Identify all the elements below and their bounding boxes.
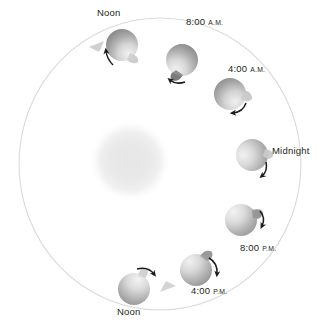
earth-noon-top	[106, 29, 138, 63]
earth-4pm	[180, 251, 212, 286]
label-4am-time: 4:00	[228, 63, 247, 74]
label-4pm-time: 4:00	[191, 285, 210, 296]
label-midnight: Midnight	[272, 146, 310, 156]
earth-8pm	[225, 204, 263, 236]
label-8am: 8:00 A.M.	[186, 17, 223, 27]
label-8pm-time: 8:00	[240, 242, 259, 253]
label-noon-bottom-text: Noon	[117, 306, 141, 317]
label-4pm: 4:00 P.M.	[191, 286, 227, 296]
earth-8am	[166, 44, 198, 81]
label-4am: 4:00 A.M.	[228, 64, 265, 74]
orbit-direction-marker-top-left	[89, 41, 104, 52]
label-4am-meridiem: A.M.	[250, 66, 265, 73]
orbit-direction-marker-bottom	[160, 281, 176, 292]
sun	[93, 124, 167, 198]
label-8am-time: 8:00	[186, 16, 205, 27]
earth-noon-bottom	[118, 268, 150, 305]
diagram-canvas: Noon 8:00 A.M. 4:00 A.M. Midnight 8:00 P…	[0, 0, 320, 324]
label-noon-bottom: Noon	[117, 307, 141, 317]
label-8pm: 8:00 P.M.	[240, 243, 276, 253]
label-8am-meridiem: A.M.	[208, 19, 223, 26]
orbit-diagram-svg	[0, 0, 320, 324]
label-midnight-text: Midnight	[272, 145, 310, 156]
label-noon-top: Noon	[97, 8, 121, 18]
label-4pm-meridiem: P.M.	[213, 288, 227, 295]
earth-4am	[214, 78, 252, 110]
label-8pm-meridiem: P.M.	[262, 245, 276, 252]
earth-midnight	[236, 139, 273, 171]
label-noon-top-text: Noon	[97, 7, 121, 18]
